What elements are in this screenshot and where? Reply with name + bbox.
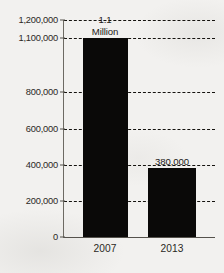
bar-chart-figure: 1,200,0001,100,000800,000600,000400,0002… [0, 0, 224, 273]
y-axis-tick-label: 0 [53, 232, 58, 242]
y-axis-tick-label: 800,000 [26, 87, 58, 97]
y-tick-mark [60, 128, 65, 129]
y-axis-tick-label: 400,000 [26, 160, 58, 170]
y-tick-mark [60, 92, 65, 93]
y-axis-tick-label: 1,200,000 [18, 15, 58, 25]
axis-baseline [64, 237, 215, 238]
y-axis-tick-label: 200,000 [26, 196, 58, 206]
bar-2007[interactable] [83, 38, 128, 237]
plot-area [64, 20, 215, 237]
bar-value-label-2007: 1.1Million [57, 14, 153, 37]
bar-value-label-line1: 380,000 [124, 156, 220, 168]
y-tick-mark [60, 38, 65, 39]
y-tick-mark [60, 164, 65, 165]
y-tick-mark [60, 200, 65, 201]
y-tick-mark [60, 237, 65, 238]
bar-value-label-line1: 1.1 [57, 14, 153, 26]
x-axis-label-2013: 2013 [132, 243, 212, 254]
y-axis-tick-label: 600,000 [26, 124, 58, 134]
bar-2013[interactable] [148, 168, 196, 237]
bar-value-label-line2: Million [57, 26, 153, 38]
bar-value-label-2013: 380,000 [124, 156, 220, 168]
y-axis-tick-label: 1,100,000 [18, 33, 58, 43]
